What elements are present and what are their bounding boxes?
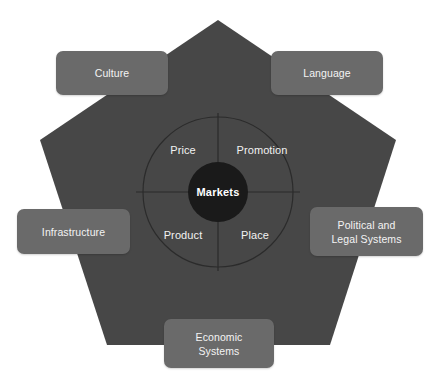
factor-label-language: Language <box>297 66 357 80</box>
factor-label-infrastructure: Infrastructure <box>36 225 111 239</box>
factor-label-political-legal-systems-line1: Political and <box>338 219 396 231</box>
quadrant-label-place: Place <box>226 229 284 242</box>
factor-box-economic-systems[interactable]: Economic Systems <box>164 319 274 368</box>
factor-box-language[interactable]: Language <box>271 51 383 95</box>
quadrant-label-price: Price <box>155 144 211 157</box>
factor-box-culture[interactable]: Culture <box>56 51 168 95</box>
factor-box-political-legal-systems[interactable]: Political and Legal Systems <box>310 207 423 256</box>
factor-box-infrastructure[interactable]: Infrastructure <box>17 209 130 254</box>
quadrant-label-promotion: Promotion <box>224 144 300 157</box>
quadrant-label-product: Product <box>152 229 214 242</box>
factor-label-political-legal-systems: Political and Legal Systems <box>325 218 407 246</box>
factor-label-economic-systems-line2: Systems <box>199 345 240 357</box>
factor-label-economic-systems-line1: Economic <box>196 331 243 343</box>
factor-label-political-legal-systems-line2: Legal Systems <box>331 233 401 245</box>
factor-label-economic-systems: Economic Systems <box>190 330 249 358</box>
center-markets-label: Markets <box>183 186 253 198</box>
diagram-canvas: Price Promotion Product Place Markets Cu… <box>0 0 436 388</box>
factor-label-culture: Culture <box>89 66 136 80</box>
